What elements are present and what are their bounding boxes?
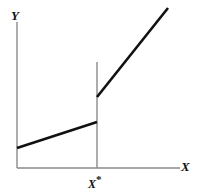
segment-below-threshold	[17, 122, 97, 148]
segment-above-threshold	[97, 8, 168, 97]
x-axis-label: X	[181, 160, 190, 173]
threshold-label-star: *	[96, 173, 102, 185]
threshold-tick-label: X*	[88, 174, 102, 190]
threshold-label-base: X	[88, 177, 96, 191]
chart-figure: Y X X*	[0, 0, 197, 195]
y-axis-label: Y	[11, 9, 19, 22]
plot-canvas	[0, 0, 197, 195]
